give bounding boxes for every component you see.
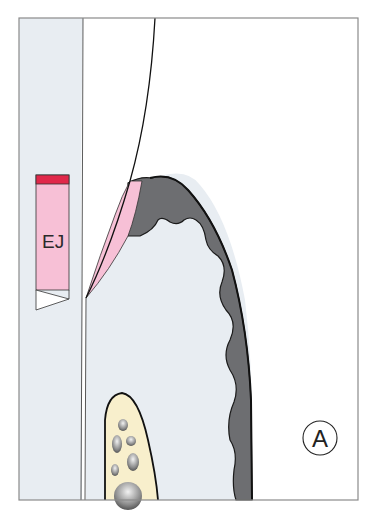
- marrow-space: [126, 436, 136, 446]
- panel-label: A: [312, 425, 328, 452]
- marrow-space: [118, 419, 128, 431]
- ej-bar-top-band: [36, 175, 69, 184]
- diagram-figure: EJ A: [0, 0, 384, 520]
- ej-label: EJ: [42, 231, 64, 252]
- marrow-space: [111, 464, 119, 476]
- marrow-space: [114, 482, 142, 510]
- marrow-space: [112, 435, 122, 453]
- marrow-space: [127, 453, 139, 471]
